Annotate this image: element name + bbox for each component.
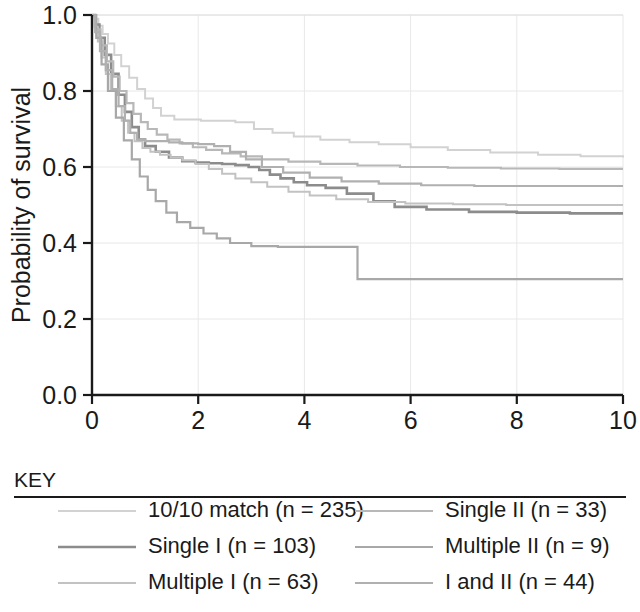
key-entry-label-5: I and II (n = 44) [445,569,595,594]
x-tick-label: 10 [609,406,637,434]
x-tick-label: 0 [85,406,99,434]
y-tick-label: 0.2 [42,305,77,333]
kaplan-meier-chart: 02468100.00.20.40.60.81.0 Probability of… [0,0,640,612]
y-axis-title: Probability of survival [7,87,35,323]
x-tick-label: 4 [297,406,311,434]
survival-figure: 02468100.00.20.40.60.81.0 Probability of… [0,0,640,612]
key-entry-label-2: Multiple I (n = 63) [148,569,319,594]
y-tick-label: 0.4 [42,229,77,257]
key-title: KEY [14,468,56,491]
key-entry-label-3: Single II (n = 33) [445,497,607,522]
y-tick-label: 0.0 [42,381,77,409]
key-entry-label-4: Multiple II (n = 9) [445,533,609,558]
x-tick-label: 6 [404,406,418,434]
key-entry-label-1: Single I (n = 103) [148,533,316,558]
y-tick-label: 0.8 [42,77,77,105]
x-tick-label: 8 [510,406,524,434]
y-tick-label: 0.6 [42,153,77,181]
key-entry-label-0: 10/10 match (n = 235) [148,497,364,522]
x-tick-label: 2 [191,406,205,434]
y-tick-label: 1.0 [42,1,77,29]
